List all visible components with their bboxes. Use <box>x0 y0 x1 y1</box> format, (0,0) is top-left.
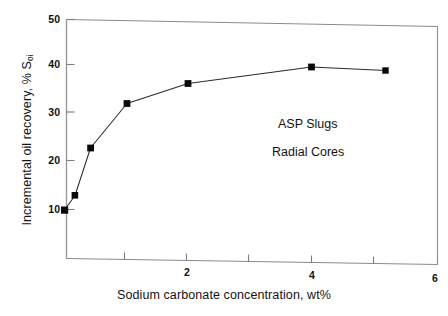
annotation-radial-cores: Radial Cores <box>272 145 344 159</box>
series-line <box>65 67 386 210</box>
annotation-asp-slugs: ASP Slugs <box>278 117 338 131</box>
y-axis-title-wrap: Incremental oil recovery, % Soi <box>17 15 37 265</box>
x-tick-label-6: 6 <box>424 272 446 284</box>
x-tick-label-4: 4 <box>301 269 323 281</box>
y-axis-title: Incremental oil recovery, % Soi <box>20 54 35 225</box>
series-markers <box>61 64 389 214</box>
y-axis-ticks <box>67 20 75 210</box>
data-point <box>72 192 79 199</box>
y-axis-title-main: Incremental oil recovery, % S <box>20 61 34 226</box>
chart-figure: 50 40 30 20 10 2 4 6 ASP Slugs Radial Co… <box>0 0 448 316</box>
data-point <box>61 207 68 214</box>
data-point <box>382 67 388 73</box>
y-tick-label-20: 20 <box>38 154 60 166</box>
axes-frame <box>67 20 438 265</box>
x-axis-title: Sodium carbonate concentration, wt% <box>0 288 448 302</box>
y-tick-label-50: 50 <box>38 13 60 25</box>
y-axis-title-subscript: oi <box>25 54 35 61</box>
y-tick-label-40: 40 <box>38 58 60 70</box>
data-point <box>308 64 315 71</box>
data-point <box>124 100 131 107</box>
data-point <box>87 145 94 152</box>
x-tick-label-2: 2 <box>176 266 198 278</box>
y-tick-label-30: 30 <box>38 106 60 118</box>
y-tick-label-10: 10 <box>38 203 60 215</box>
plot-area <box>0 0 448 316</box>
data-point <box>185 80 192 87</box>
